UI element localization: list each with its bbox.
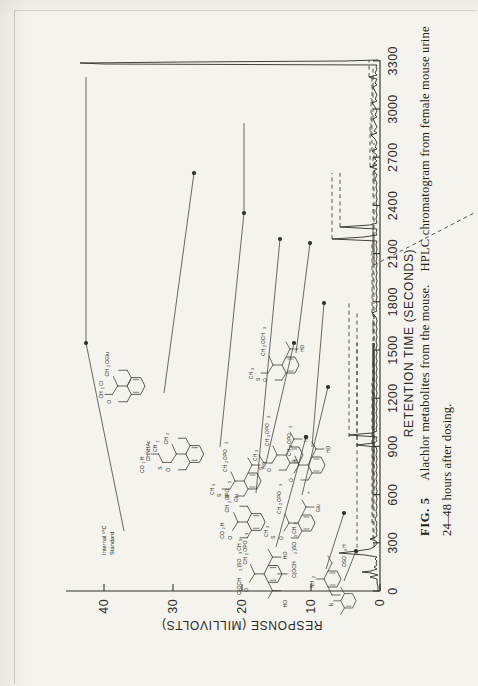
svg-text:CH: CH [163, 437, 169, 445]
svg-text:3: 3 [255, 450, 259, 452]
structure-diagram: O HO CH 2 OCH 3 S CH 3 [249, 327, 305, 382]
svg-text:C(OCH: C(OCH [236, 578, 242, 595]
svg-text:3: 3 [239, 539, 243, 541]
svg-text:HO: HO [304, 434, 309, 442]
svg-text:C(OCH: C(OCH [291, 561, 297, 578]
svg-text:CH: CH [104, 369, 110, 377]
axis-group [66, 60, 380, 591]
structure-diagram: NH 2 OSO 3 H [310, 544, 348, 595]
svg-text:2: 2 [228, 501, 232, 503]
svg-text:O: O [263, 378, 268, 382]
chromatogram-svg: 0 300 600 900 1200 1500 1800 2100 2400 2… [44, 43, 434, 643]
svg-text:O: O [267, 468, 272, 472]
structure-diagram: O CO 2 H CH 2 OPO 3 Glu [219, 481, 265, 540]
svg-text:HO: HO [282, 600, 288, 608]
svg-text:2: 2 [101, 387, 105, 389]
svg-text:2: 2 [267, 435, 271, 437]
svg-text:OPO: OPO [277, 491, 282, 502]
svg-text:3: 3 [279, 484, 283, 486]
svg-text:3: 3 [263, 327, 267, 329]
svg-text:S: S [256, 377, 261, 381]
svg-text:O: O [279, 536, 284, 540]
svg-text:CH: CH [236, 543, 242, 551]
svg-text:3: 3 [228, 481, 232, 483]
x-tick-labels: 0 300 600 900 1200 1500 1800 2100 2400 2… [386, 46, 400, 595]
structure-diagram: O CH 2 Cl CH 2 OGlu [98, 352, 145, 404]
svg-text:OCH: OCH [261, 333, 266, 344]
chromatogram-plot: 0 300 600 900 1200 1500 1800 2100 2400 2… [44, 43, 434, 643]
svg-text:S: S [271, 535, 276, 539]
y-axis-title: RESPONSE (MILLIVOLTS) [161, 618, 322, 632]
svg-text:2: 2 [245, 553, 249, 555]
svg-text:CH: CH [253, 453, 258, 461]
svg-text:S: S [217, 493, 222, 497]
chromatogram-figure: 0 300 600 900 1200 1500 1800 2100 2400 2… [44, 43, 434, 643]
svg-text:3: 3 [289, 426, 293, 428]
x-tick-label: 3000 [386, 94, 400, 123]
svg-text:H: H [293, 459, 298, 463]
x-tick-label: 1500 [386, 335, 400, 364]
y-tick-label: 40 [97, 599, 111, 614]
svg-text:CO: CO [139, 465, 145, 473]
svg-text:S: S [157, 466, 163, 470]
caption-text-a: Alachlor metabolites from the mouse. [418, 284, 432, 480]
svg-text:H: H [342, 544, 347, 548]
svg-text:Glu: Glu [316, 504, 321, 512]
structure-diagram: O HO CH 2 OPO 3 H [287, 426, 331, 482]
svg-text:2: 2 [294, 552, 298, 554]
svg-text:O: O [225, 494, 230, 498]
svg-text:+: + [306, 491, 311, 494]
y-tick-label: 20 [235, 599, 249, 614]
svg-text:H: H [139, 456, 145, 460]
svg-text:)SO: )SO [236, 558, 242, 567]
svg-text:Cl: Cl [98, 381, 104, 386]
svg-text:2: 2 [107, 365, 111, 367]
x-tick-label: 2100 [386, 239, 400, 268]
y-tick-label: 0 [373, 599, 387, 606]
svg-text:CO: CO [219, 531, 225, 539]
svg-text:CH: CH [223, 464, 228, 472]
svg-text:2: 2 [166, 433, 170, 435]
svg-text:3: 3 [245, 533, 249, 535]
svg-text:3: 3 [266, 526, 270, 528]
svg-text:2: 2 [312, 576, 316, 578]
svg-text:CH: CH [249, 371, 254, 379]
svg-text:2: 2 [263, 345, 267, 347]
svg-text:OGlu: OGlu [104, 352, 110, 364]
svg-text:2: 2 [142, 461, 146, 463]
svg-text:O: O [227, 536, 233, 540]
svg-text:2: 2 [279, 503, 283, 505]
svg-text:HO: HO [300, 344, 305, 352]
svg-text:OSO: OSO [342, 556, 347, 567]
svg-text:3: 3 [294, 523, 298, 525]
svg-text:CH: CH [277, 506, 282, 514]
svg-text:CH: CH [242, 557, 248, 565]
svg-text:3: 3 [212, 484, 216, 486]
x-tick-label: 2700 [386, 142, 400, 171]
svg-text:)SO: )SO [291, 542, 297, 551]
svg-text:CH: CH [210, 487, 215, 495]
y-tick-label: 30 [166, 599, 180, 614]
svg-text:OPO: OPO [242, 540, 248, 551]
scanned-page: 0 300 600 900 1200 1500 1800 2100 2400 2… [0, 0, 478, 686]
svg-text:OPO: OPO [265, 423, 270, 434]
svg-text:N: N [329, 603, 334, 606]
x-tick-label: 1200 [386, 383, 400, 412]
svg-text:CH: CH [224, 505, 230, 513]
svg-text:O: O [289, 478, 294, 482]
internal-standard-line1: Internal ¹⁴C [101, 525, 107, 555]
svg-text:NH: NH [310, 580, 315, 588]
svg-text:3: 3 [294, 535, 298, 537]
svg-text:3: 3 [344, 549, 348, 551]
svg-text:2: 2 [222, 527, 226, 529]
svg-text:CHNHAc: CHNHAc [145, 440, 151, 461]
caption-text-b: HPLC chromatogram from female mouse urin… [418, 26, 432, 271]
x-tick-label: 2400 [386, 191, 400, 220]
svg-text:3: 3 [251, 368, 255, 370]
svg-text:2: 2 [156, 440, 160, 442]
x-tick-label: 300 [386, 532, 400, 554]
figure-number: FIG. 5 [418, 497, 432, 536]
structure-diagram: O CH 2 S CH 2 CHNHAc CO 2 H [139, 433, 204, 473]
x-tick-label: 600 [386, 484, 400, 506]
caption-text-c: 24–48 hours after dosing. [440, 404, 454, 536]
